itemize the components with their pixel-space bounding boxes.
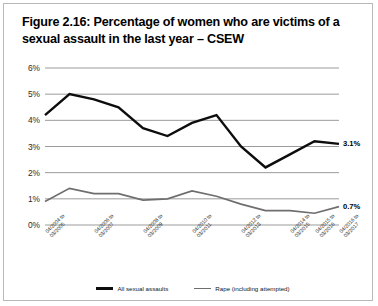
legend-swatch-icon bbox=[96, 287, 113, 289]
series-end-label: 0.7% bbox=[343, 202, 360, 211]
plot-area bbox=[45, 68, 339, 225]
y-axis-tick-label: 0% bbox=[12, 220, 40, 230]
y-axis-tick-label: 6% bbox=[12, 63, 40, 73]
series-line-all-sexual-assaults bbox=[45, 94, 339, 167]
gridlines bbox=[45, 68, 339, 225]
y-axis-tick-label: 4% bbox=[12, 115, 40, 125]
figure-title: Figure 2.16: Percentage of women who are… bbox=[22, 14, 352, 47]
series-end-label: 3.1% bbox=[343, 139, 360, 148]
legend-item: All sexual assaults bbox=[96, 285, 168, 292]
legend-swatch-icon bbox=[194, 288, 211, 290]
y-axis-tick-label: 5% bbox=[12, 89, 40, 99]
y-axis-tick-label: 2% bbox=[12, 168, 40, 178]
legend-item: Rape (including attempted) bbox=[194, 285, 289, 292]
figure-frame: Figure 2.16: Percentage of women who are… bbox=[3, 3, 373, 301]
series-line-rape bbox=[45, 188, 339, 213]
legend-label: Rape (including attempted) bbox=[215, 285, 289, 292]
chart-lines bbox=[45, 68, 339, 225]
chart-legend: All sexual assaultsRape (including attem… bbox=[4, 285, 378, 292]
legend-label: All sexual assaults bbox=[117, 285, 168, 292]
y-axis-tick-label: 1% bbox=[12, 194, 40, 204]
y-axis-tick-label: 3% bbox=[12, 142, 40, 152]
